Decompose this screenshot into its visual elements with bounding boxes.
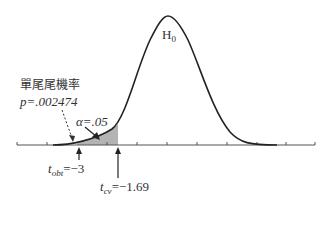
h0-symbol: H xyxy=(162,27,171,42)
t-obt-subscript: obt xyxy=(52,168,64,178)
t-obt-label: tobt=−3 xyxy=(48,162,84,178)
pvalue-title: 單尾尾機率 xyxy=(20,79,80,91)
pvalue-label: p=.002474 xyxy=(20,95,78,108)
t-obt-value: =−3 xyxy=(63,161,84,176)
t-cv-label: tcv=−1.69 xyxy=(100,180,149,196)
t-cv-subscript: cv xyxy=(104,186,112,196)
t-cv-arrowhead xyxy=(115,147,121,154)
alpha-label: α=.05 xyxy=(76,115,108,128)
pvalue-pointer xyxy=(62,110,72,138)
t-obt-arrowhead xyxy=(76,147,82,154)
h0-label: H0 xyxy=(162,28,176,44)
pvalue-arrowhead xyxy=(69,135,75,142)
t-cv-value: =−1.69 xyxy=(112,179,149,194)
h0-subscript: 0 xyxy=(171,34,176,44)
